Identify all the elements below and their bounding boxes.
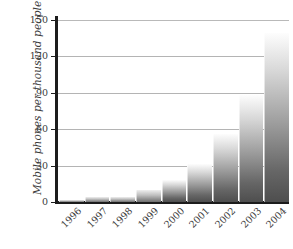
bar: [162, 180, 186, 202]
y-tick-label: 30: [6, 161, 48, 171]
y-axis-ticks: 0306090120150: [0, 0, 48, 249]
y-tick-label: 120: [6, 51, 48, 61]
y-tick-label: 0: [6, 197, 48, 207]
bar: [187, 164, 211, 202]
bar-chart-figure: Mobile phones per thousand people 030609…: [0, 0, 293, 249]
bar: [264, 33, 288, 202]
y-tick-label: 60: [6, 124, 48, 134]
bar: [213, 134, 237, 202]
y-tick-label: 90: [6, 88, 48, 98]
bars-layer: [58, 0, 289, 202]
bar: [239, 95, 263, 202]
x-axis-ticks: 199619971998199920002001200220032004: [58, 204, 289, 249]
y-tick-label: 150: [6, 15, 48, 25]
